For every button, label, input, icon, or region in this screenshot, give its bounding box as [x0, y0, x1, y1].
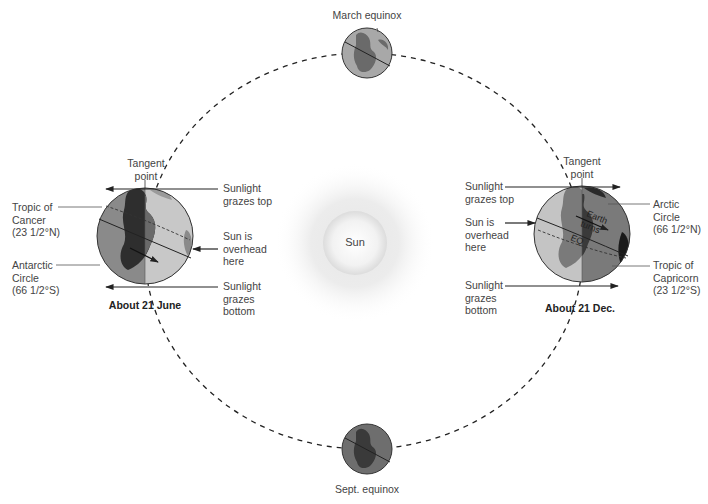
march-equinox-globe — [342, 28, 392, 78]
arctic-circle-label: Arctic Circle (66 1/2°N) — [653, 198, 701, 236]
june-grazes-bottom-label: Sunlight grazes bottom — [223, 280, 261, 318]
june-tangent-point-label: Tangent point — [118, 157, 174, 182]
tropic-of-capricorn-label: Tropic of Capricorn (23 1/2°S) — [653, 259, 700, 297]
dec-grazes-bottom-label: Sunlight grazes bottom — [465, 279, 503, 317]
june-grazes-top-label: Sunlight grazes top — [223, 182, 272, 207]
sun-label: Sun — [330, 236, 380, 249]
march-equinox-label: March equinox — [317, 9, 417, 22]
sept-equinox-label: Sept. equinox — [317, 483, 417, 496]
june-title: About 21 June — [95, 299, 195, 312]
december-solstice-globe: Earth turns EQ — [534, 184, 632, 284]
june-solstice-globe — [97, 186, 195, 286]
dec-overhead-label: Sun is overhead here — [465, 216, 509, 254]
june-overhead-label: Sun is overhead here — [223, 230, 267, 268]
tropic-of-cancer-label: Tropic of Cancer (23 1/2°N) — [12, 201, 60, 239]
dec-tangent-point-label: Tangent point — [552, 155, 612, 180]
diagram-canvas: Earth turns EQ — [0, 0, 708, 504]
dec-title: About 21 Dec. — [530, 302, 630, 315]
sept-equinox-globe — [342, 424, 392, 474]
dec-grazes-top-label: Sunlight grazes top — [465, 180, 514, 205]
antarctic-circle-label: Antarctic Circle (66 1/2°S) — [12, 259, 59, 297]
